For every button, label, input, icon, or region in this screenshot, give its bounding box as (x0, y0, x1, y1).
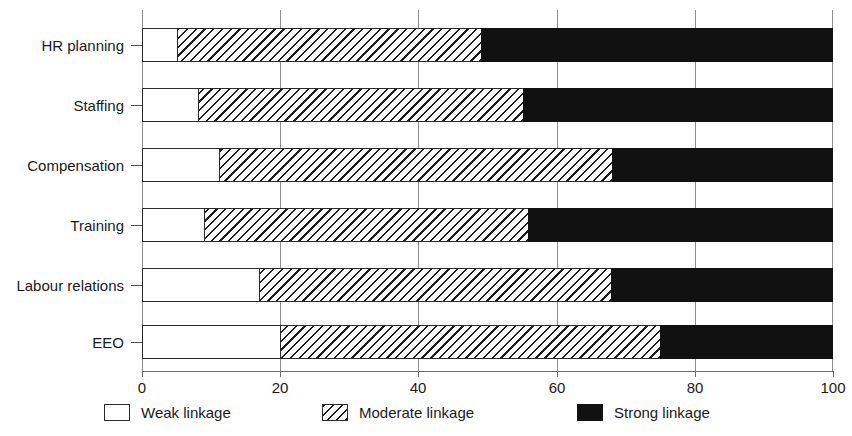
legend-label-strong-linkage: Strong linkage (614, 404, 710, 421)
bar-hr-planning (142, 28, 833, 62)
segment-weak-linkage (142, 88, 199, 122)
gridline-40 (418, 10, 419, 371)
legend-item-moderate-linkage: Moderate linkage (322, 400, 474, 424)
segment-weak-linkage (142, 28, 178, 62)
legend-swatch-weak-icon (104, 404, 130, 421)
ytick-mark-eeo (131, 342, 142, 343)
segment-strong-linkage (611, 268, 833, 302)
bar-compensation (142, 148, 833, 182)
legend-label-weak-linkage: Weak linkage (141, 404, 231, 421)
segment-weak-linkage (142, 148, 220, 182)
xtick-mark-20 (280, 371, 281, 377)
ytick-label-eeo: EEO (92, 334, 124, 351)
ytick-mark-compensation (131, 165, 142, 166)
xtick-label-20: 20 (250, 379, 310, 396)
ytick-mark-labour-relations (131, 285, 142, 286)
gridline-0 (142, 10, 143, 371)
x-axis-line (142, 371, 834, 372)
bar-training (142, 208, 833, 242)
gridline-20 (280, 10, 281, 371)
segment-moderate-linkage (177, 28, 482, 62)
segment-moderate-linkage (198, 88, 524, 122)
xtick-mark-100 (833, 371, 834, 377)
xtick-mark-0 (142, 371, 143, 377)
xtick-mark-80 (695, 371, 696, 377)
gridline-100 (832, 10, 833, 371)
segment-strong-linkage (528, 208, 833, 242)
legend-swatch-moderate-icon (322, 404, 348, 421)
stacked-bar-chart: 0 20 40 60 80 100 HR planning Staffing C… (0, 0, 852, 436)
segment-moderate-linkage (219, 148, 613, 182)
xtick-label-60: 60 (527, 379, 587, 396)
bar-staffing (142, 88, 833, 122)
ytick-mark-hr-planning (131, 45, 142, 46)
segment-strong-linkage (481, 28, 833, 62)
xtick-label-40: 40 (388, 379, 448, 396)
segment-weak-linkage (142, 268, 260, 302)
segment-weak-linkage (142, 325, 281, 359)
ytick-label-compensation: Compensation (27, 157, 124, 174)
xtick-label-0: 0 (112, 379, 172, 396)
bar-eeo (142, 325, 833, 359)
plot-area (142, 10, 833, 371)
ytick-label-hr-planning: HR planning (41, 37, 124, 54)
segment-strong-linkage (660, 325, 833, 359)
xtick-label-80: 80 (665, 379, 725, 396)
xtick-mark-60 (557, 371, 558, 377)
segment-weak-linkage (142, 208, 205, 242)
gridline-60 (557, 10, 558, 371)
ytick-label-labour-relations: Labour relations (16, 277, 124, 294)
xtick-mark-40 (418, 371, 419, 377)
chart-legend: Weak linkage Moderate linkage Strong lin… (0, 400, 852, 430)
segment-moderate-linkage (204, 208, 529, 242)
ytick-mark-staffing (131, 105, 142, 106)
bar-labour-relations (142, 268, 833, 302)
segment-moderate-linkage (259, 268, 612, 302)
ytick-label-staffing: Staffing (73, 97, 124, 114)
legend-label-moderate-linkage: Moderate linkage (359, 404, 474, 421)
segment-strong-linkage (523, 88, 833, 122)
ytick-mark-training (131, 225, 142, 226)
xtick-label-100: 100 (803, 379, 852, 396)
segment-moderate-linkage (280, 325, 661, 359)
legend-swatch-strong-icon (577, 404, 603, 421)
ytick-label-training: Training (70, 217, 124, 234)
segment-strong-linkage (612, 148, 833, 182)
gridline-80 (695, 10, 696, 371)
legend-item-strong-linkage: Strong linkage (577, 400, 710, 424)
legend-item-weak-linkage: Weak linkage (104, 400, 231, 424)
